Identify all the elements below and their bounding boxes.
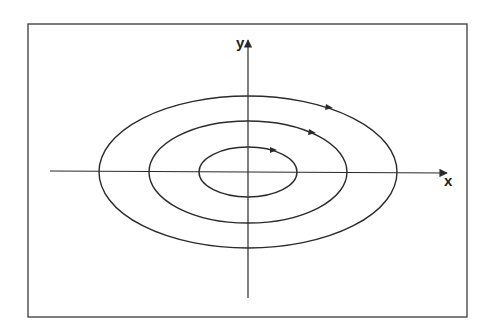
y-axis-label: y — [236, 34, 245, 51]
phase-portrait-diagram: y x — [0, 0, 494, 335]
x-axis-label: x — [444, 172, 453, 189]
